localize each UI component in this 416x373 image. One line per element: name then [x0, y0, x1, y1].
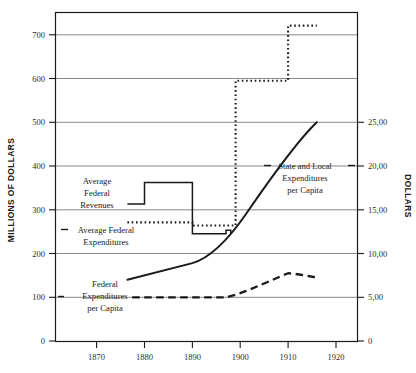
ann-avg-fed-revenues: Average Federal Revenues [80, 176, 114, 210]
left-tick-label-700: 700 [32, 30, 45, 40]
ann-avg-fed-revenues-line-3: Revenues [80, 200, 114, 210]
right-tick-label-15: 15,00 [368, 205, 387, 215]
x-tick-label-1890: 1890 [184, 352, 201, 362]
left-axis-tick-labels: 0 100 200 300 400 500 600 700 [32, 30, 45, 346]
left-tick-label-100: 100 [32, 292, 45, 302]
right-tick-label-5: 5,00 [368, 292, 383, 302]
right-axis-title: DOLLARS [403, 174, 413, 217]
left-tick-label-400: 400 [32, 161, 45, 171]
x-tick-label-1920: 1920 [328, 352, 345, 362]
ann-avg-fed-expenditures-line-2: Expenditures [83, 237, 129, 247]
left-axis-title: MILLIONS OF DOLLARS [6, 138, 16, 242]
chart-figure: 0 100 200 300 400 500 600 700 MILLIONS O… [0, 0, 416, 373]
ann-avg-fed-revenues-line-1: Average [83, 176, 112, 186]
left-tick-label-500: 500 [32, 117, 45, 127]
ann-avg-fed-expenditures-line-1: Average Federal [78, 225, 135, 235]
left-tick-label-600: 600 [32, 74, 45, 84]
x-tick-label-1880: 1880 [136, 352, 153, 362]
ann-fed-per-capita-line-1: Federal [92, 279, 118, 289]
right-tick-label-25: 25,00 [368, 117, 387, 127]
right-tick-label-10: 10,00 [368, 249, 387, 259]
ann-state-local-line-3: per Capita [287, 185, 323, 195]
x-tick-label-1900: 1900 [232, 352, 249, 362]
chart-svg: 0 100 200 300 400 500 600 700 MILLIONS O… [0, 0, 416, 373]
ann-fed-per-capita-line-2: Expenditures [82, 291, 128, 301]
right-axis-tick-labels: 0 5,00 10,00 15,00 20,00 25,00 [368, 117, 387, 346]
x-tick-label-1910: 1910 [280, 352, 297, 362]
ann-state-local-line-2: Expenditures [282, 173, 328, 183]
ann-state-local-line-1: State and Local [278, 161, 332, 171]
right-tick-label-20: 20,00 [368, 161, 387, 171]
x-axis-tick-labels: 1870 1880 1890 1900 1910 1920 [88, 352, 344, 362]
left-tick-label-200: 200 [32, 249, 45, 259]
left-tick-label-0: 0 [41, 336, 45, 346]
left-tick-label-300: 300 [32, 205, 45, 215]
right-tick-label-0: 0 [368, 336, 372, 346]
x-tick-label-1870: 1870 [88, 352, 105, 362]
ann-fed-per-capita-line-3: per Capita [87, 303, 123, 313]
ann-avg-fed-revenues-line-2: Federal [84, 188, 110, 198]
